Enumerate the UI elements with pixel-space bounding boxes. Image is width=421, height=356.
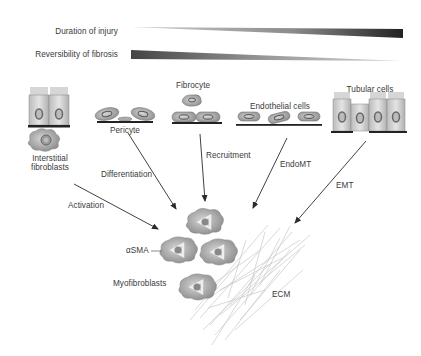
fibrocyte-icon — [182, 95, 201, 106]
recruitment-label: Recruitment — [206, 151, 251, 160]
differentiation-label: Differentiation — [101, 170, 152, 179]
myofibroblast-cell-icon — [179, 274, 217, 300]
reversibility-of-fibrosis-label: Reversibility of fibrosis — [0, 50, 118, 59]
endomt-arrow — [253, 138, 287, 208]
myofibroblast-cell-icon — [200, 239, 238, 265]
activation-label: Activation — [68, 201, 104, 210]
tubular-cells-label: Tubular cells — [335, 85, 405, 94]
interstitial-epithelium-icon — [28, 87, 70, 128]
pericyte-label: Pericyte — [95, 126, 155, 135]
ecm-label: ECM — [272, 290, 290, 299]
duration-of-injury-label: Duration of injury — [20, 27, 118, 36]
endothelial-cells-label: Endothelial cells — [240, 102, 320, 111]
fibrocyte-vessel-icon — [172, 112, 222, 124]
asma-label: αSMA — [126, 246, 149, 255]
recruitment-arrow — [200, 134, 205, 201]
interstitial-fibroblast-cell-icon — [28, 129, 59, 152]
endothelial-cells-icon — [236, 110, 322, 125]
emt-label: EMT — [336, 181, 353, 190]
fibrocyte-label: Fibrocyte — [163, 81, 223, 90]
interstitial-fibroblasts-label: Interstitial fibroblasts — [10, 154, 90, 173]
pericyte-icon — [94, 106, 156, 123]
reversibility-of-fibrosis-wedge — [131, 50, 403, 61]
fibrosis-diagram: Duration of injury Reversibility of fibr… — [0, 0, 421, 356]
endomt-label: EndoMT — [280, 160, 311, 169]
emt-arrow — [295, 141, 366, 223]
myofibroblast-cell-icon — [160, 237, 198, 263]
myofibroblasts-label: Myofibroblasts — [113, 279, 166, 288]
myofibroblast-cell-icon — [186, 208, 223, 234]
duration-of-injury-wedge — [131, 27, 403, 38]
tubular-cells-icon — [331, 92, 407, 133]
